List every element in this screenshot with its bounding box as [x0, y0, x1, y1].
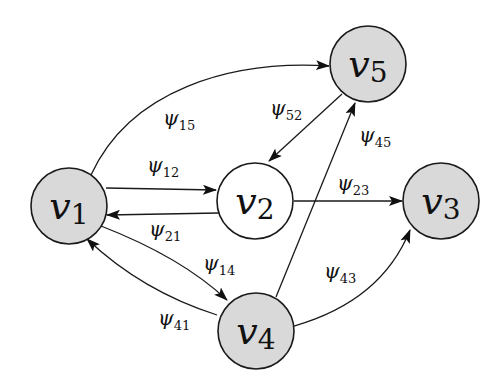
node-v3: v3 — [403, 163, 479, 239]
edge-label-23: ψ23 — [337, 171, 369, 198]
edge-label-52: ψ52 — [270, 96, 302, 123]
node-v5: v5 — [330, 26, 406, 102]
edge-v1-v2 — [106, 188, 216, 190]
edge-label-21: ψ21 — [149, 217, 181, 244]
graph-canvas: ψ15 ψ12 ψ21 ψ14 ψ41 ψ52 ψ45 ψ23 ψ43 v1 v… — [0, 0, 504, 383]
edge-v4-v1 — [87, 239, 217, 315]
node-v4: v4 — [218, 293, 294, 369]
edge-label-15: ψ15 — [163, 106, 195, 133]
edge-v2-v1 — [107, 213, 219, 215]
edge-label-45: ψ45 — [359, 123, 391, 150]
node-v1: v1 — [31, 168, 107, 244]
edge-label-12: ψ12 — [147, 153, 179, 180]
edge-label-14: ψ14 — [203, 251, 235, 278]
edge-label-41: ψ41 — [158, 306, 190, 333]
edge-label-43: ψ43 — [324, 259, 356, 286]
node-v2: v2 — [217, 163, 293, 239]
